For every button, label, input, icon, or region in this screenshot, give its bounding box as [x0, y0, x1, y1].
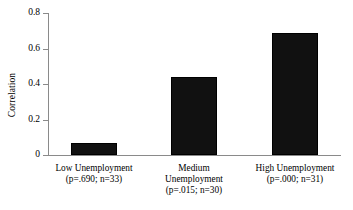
y-tick-label: 0.4 — [0, 79, 40, 89]
y-tick-label: 0.2 — [0, 115, 40, 125]
plot-area — [48, 13, 341, 155]
bar — [272, 33, 318, 155]
y-tick-label: 0.6 — [0, 44, 40, 54]
bar-chart: Correlation 00.20.40.60.8 Low Unemployme… — [0, 0, 353, 210]
y-tick-label: 0.8 — [0, 8, 40, 18]
x-axis-category-label: High Unemployment (p=.000; n=31) — [235, 163, 353, 185]
bar — [171, 77, 217, 155]
bar — [71, 143, 117, 155]
y-axis-title: Correlation — [7, 45, 17, 145]
y-tick-mark — [43, 155, 48, 156]
x-axis-line — [48, 155, 341, 156]
y-tick-label: 0 — [0, 150, 40, 160]
